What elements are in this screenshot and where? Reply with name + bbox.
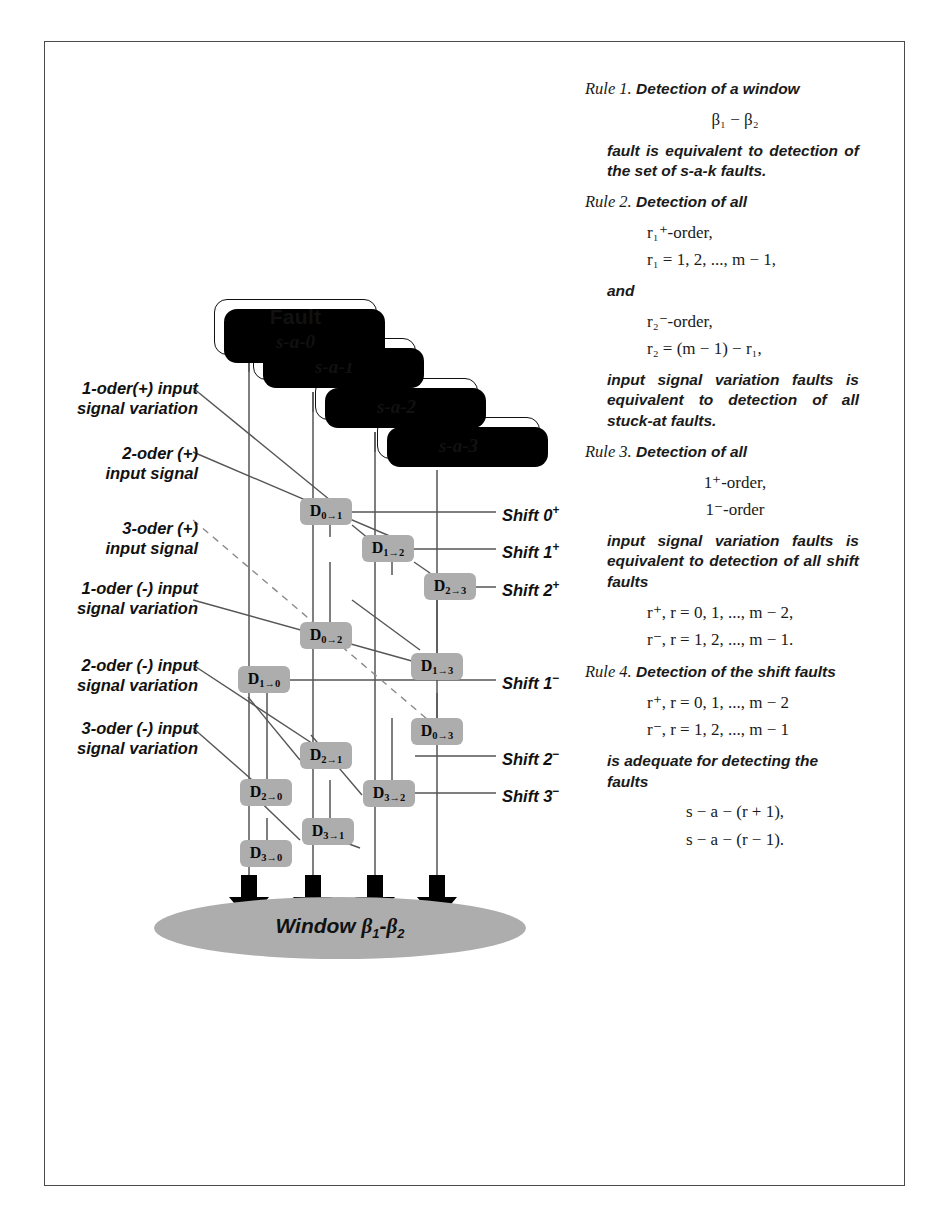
rule-4-heading: Rule 4. Detection of the shift faults (585, 661, 885, 683)
delay-box-subscript: 0→1 (321, 510, 342, 521)
label-2-order-negative: 2-oder (-) input signal variation (58, 655, 198, 695)
rule-4-equation-1: r⁺, r = 0, 1, ..., m − 2 (647, 692, 885, 715)
delay-box-subscript: 2→3 (445, 585, 466, 596)
window-node-label: Window β1-β2 (275, 914, 404, 941)
rule-3-equation-4: r⁻, r = 1, 2, ..., m − 1. (647, 629, 885, 652)
fault-card-label: s-a-3 (378, 435, 539, 457)
window-node[interactable]: Window β1-β2 (154, 897, 526, 959)
rule-4-equation-3: s − a − (r + 1), (585, 801, 885, 824)
shift-label-3-minus: Shift 3− (502, 784, 559, 806)
rule-2-conjunction: and (607, 281, 859, 302)
rule-2-body: input signal variation faults is equival… (607, 370, 859, 432)
delay-box-d-1-3[interactable]: D1→3 (411, 653, 463, 680)
label-1-order-negative: 1-oder (-) input signal variation (58, 578, 198, 618)
rule-3-equation-3: r⁺, r = 0, 1, ..., m − 2, (647, 602, 885, 625)
label-2-order-positive: 2-oder (+) input signal (58, 443, 198, 483)
delay-box-d-1-0[interactable]: D1→0 (238, 666, 290, 693)
delay-box-d-3-0[interactable]: D3→0 (240, 840, 292, 867)
shift-label-2-plus: Shift 2+ (502, 578, 559, 600)
shift-label-2-minus: Shift 2− (502, 747, 559, 769)
rule-3-heading: Rule 3. Detection of all (585, 441, 885, 463)
delay-box-subscript: 1→3 (432, 665, 453, 676)
rule-2-equation-1b: r₁ = 1, 2, ..., m − 1, (647, 249, 885, 272)
label-3-order-positive: 3-oder (+) input signal (58, 518, 198, 558)
rules-panel: Rule 1. Detection of a window β₁ − β₂ fa… (585, 78, 885, 860)
delay-box-d-1-2[interactable]: D1→2 (362, 535, 414, 562)
label-1-order-positive: 1-oder(+) input signal variation (58, 378, 198, 418)
fault-card-s-a-0[interactable]: Fault s-a-0 (214, 299, 377, 355)
delay-box-subscript: 2→1 (321, 754, 342, 765)
rule-4-body: is adequate for detecting the faults (607, 751, 859, 792)
delay-box-subscript: 0→3 (432, 730, 453, 741)
fault-card-label: s-a-2 (316, 396, 477, 418)
delay-box-d-0-1[interactable]: D0→1 (300, 498, 352, 525)
rule-1-heading: Rule 1. Detection of a window (585, 78, 885, 100)
rule-3-equation-2: 1⁻-order (585, 499, 885, 522)
rule-3-body: input signal variation faults is equival… (607, 531, 859, 593)
delay-box-subscript: 3→1 (323, 830, 344, 841)
shift-label-1-plus: Shift 1+ (502, 540, 559, 562)
shift-label-0-plus: Shift 0+ (502, 503, 559, 525)
rule-2-equation-2a: r₂⁻-order, (647, 311, 885, 334)
delay-box-subscript: 3→0 (261, 852, 282, 863)
delay-box-subscript: 0→2 (321, 634, 342, 645)
rule-1-body: fault is equivalent to detection of the … (607, 141, 859, 182)
delay-box-d-2-3[interactable]: D2→3 (424, 573, 476, 600)
delay-box-d-0-3[interactable]: D0→3 (411, 718, 463, 745)
delay-box-subscript: 3→2 (384, 792, 405, 803)
delay-box-subscript: 1→0 (259, 678, 280, 689)
rule-2-heading: Rule 2. Detection of all (585, 191, 885, 213)
delay-box-d-2-0[interactable]: D2→0 (240, 779, 292, 806)
delay-box-d-0-2[interactable]: D0→2 (300, 622, 352, 649)
rule-2-equation-1a: r₁⁺-order, (647, 222, 885, 245)
rule-1-equation: β₁ − β₂ (585, 109, 885, 132)
rule-4-equation-4: s − a − (r − 1). (585, 829, 885, 852)
rule-4-equation-2: r⁻, r = 1, 2, ..., m − 1 (647, 719, 885, 742)
delay-box-d-3-1[interactable]: D3→1 (302, 818, 354, 845)
label-3-order-negative: 3-oder (-) input signal variation (58, 718, 198, 758)
fault-card-title: Fault (215, 305, 376, 329)
delay-box-subscript: 2→0 (261, 791, 282, 802)
fault-card-label: s-a-0 (215, 331, 376, 353)
shift-label-1-minus: Shift 1− (502, 671, 559, 693)
delay-box-subscript: 1→2 (383, 547, 404, 558)
rule-2-equation-2b: r₂ = (m − 1) − r₁, (647, 338, 885, 361)
delay-box-d-2-1[interactable]: D2→1 (300, 742, 352, 769)
delay-box-d-3-2[interactable]: D3→2 (363, 780, 415, 807)
rule-3-equation-1: 1⁺-order, (585, 472, 885, 495)
